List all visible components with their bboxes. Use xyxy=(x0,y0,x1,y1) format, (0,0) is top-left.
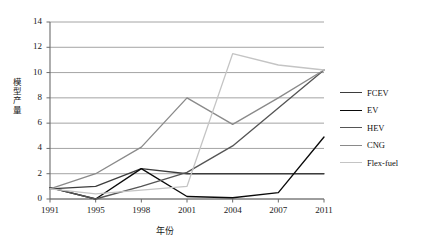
y-tick-label: 4 xyxy=(20,142,42,152)
legend-swatch-cng xyxy=(340,145,362,146)
x-tick-label: 2011 xyxy=(304,205,344,215)
series-line-hev xyxy=(50,70,324,199)
legend-item-cng[interactable]: CNG xyxy=(340,137,422,155)
legend-item-fcev[interactable]: FCEV xyxy=(340,84,422,102)
y-tick-label: 8 xyxy=(20,92,42,102)
series-line-cng xyxy=(50,70,324,189)
legend-swatch-fcev xyxy=(340,92,362,93)
x-tick-label: 2001 xyxy=(167,205,207,215)
chart-figure: 模 型 产 量 年份 02468101214 19911995199820012… xyxy=(0,0,424,246)
legend-swatch-ev xyxy=(340,110,362,111)
legend-label-ev: EV xyxy=(367,105,378,115)
series-line-ev xyxy=(50,137,324,199)
y-tick-label: 12 xyxy=(20,41,42,51)
x-tick-label: 1991 xyxy=(30,205,70,215)
x-tick-label: 1998 xyxy=(121,205,161,215)
chart-legend: FCEV EV HEV CNG Flex-fuel xyxy=(340,84,422,172)
x-tick-label: 1995 xyxy=(76,205,116,215)
legend-label-hev: HEV xyxy=(367,123,384,133)
legend-item-ev[interactable]: EV xyxy=(340,102,422,120)
y-tick-label: 14 xyxy=(20,16,42,26)
legend-item-flex-fuel[interactable]: Flex-fuel xyxy=(340,154,422,172)
x-tick-label: 2007 xyxy=(258,205,298,215)
y-tick-label: 10 xyxy=(20,67,42,77)
legend-label-fcev: FCEV xyxy=(367,88,389,98)
legend-label-flex-fuel: Flex-fuel xyxy=(367,158,398,168)
y-tick-label: 0 xyxy=(20,193,42,203)
legend-swatch-hev xyxy=(340,127,362,128)
x-tick-label: 2004 xyxy=(213,205,253,215)
legend-swatch-flex-fuel xyxy=(340,162,362,163)
legend-label-cng: CNG xyxy=(367,140,385,150)
y-tick-label: 6 xyxy=(20,117,42,127)
y-tick-label: 2 xyxy=(20,168,42,178)
legend-item-hev[interactable]: HEV xyxy=(340,119,422,137)
